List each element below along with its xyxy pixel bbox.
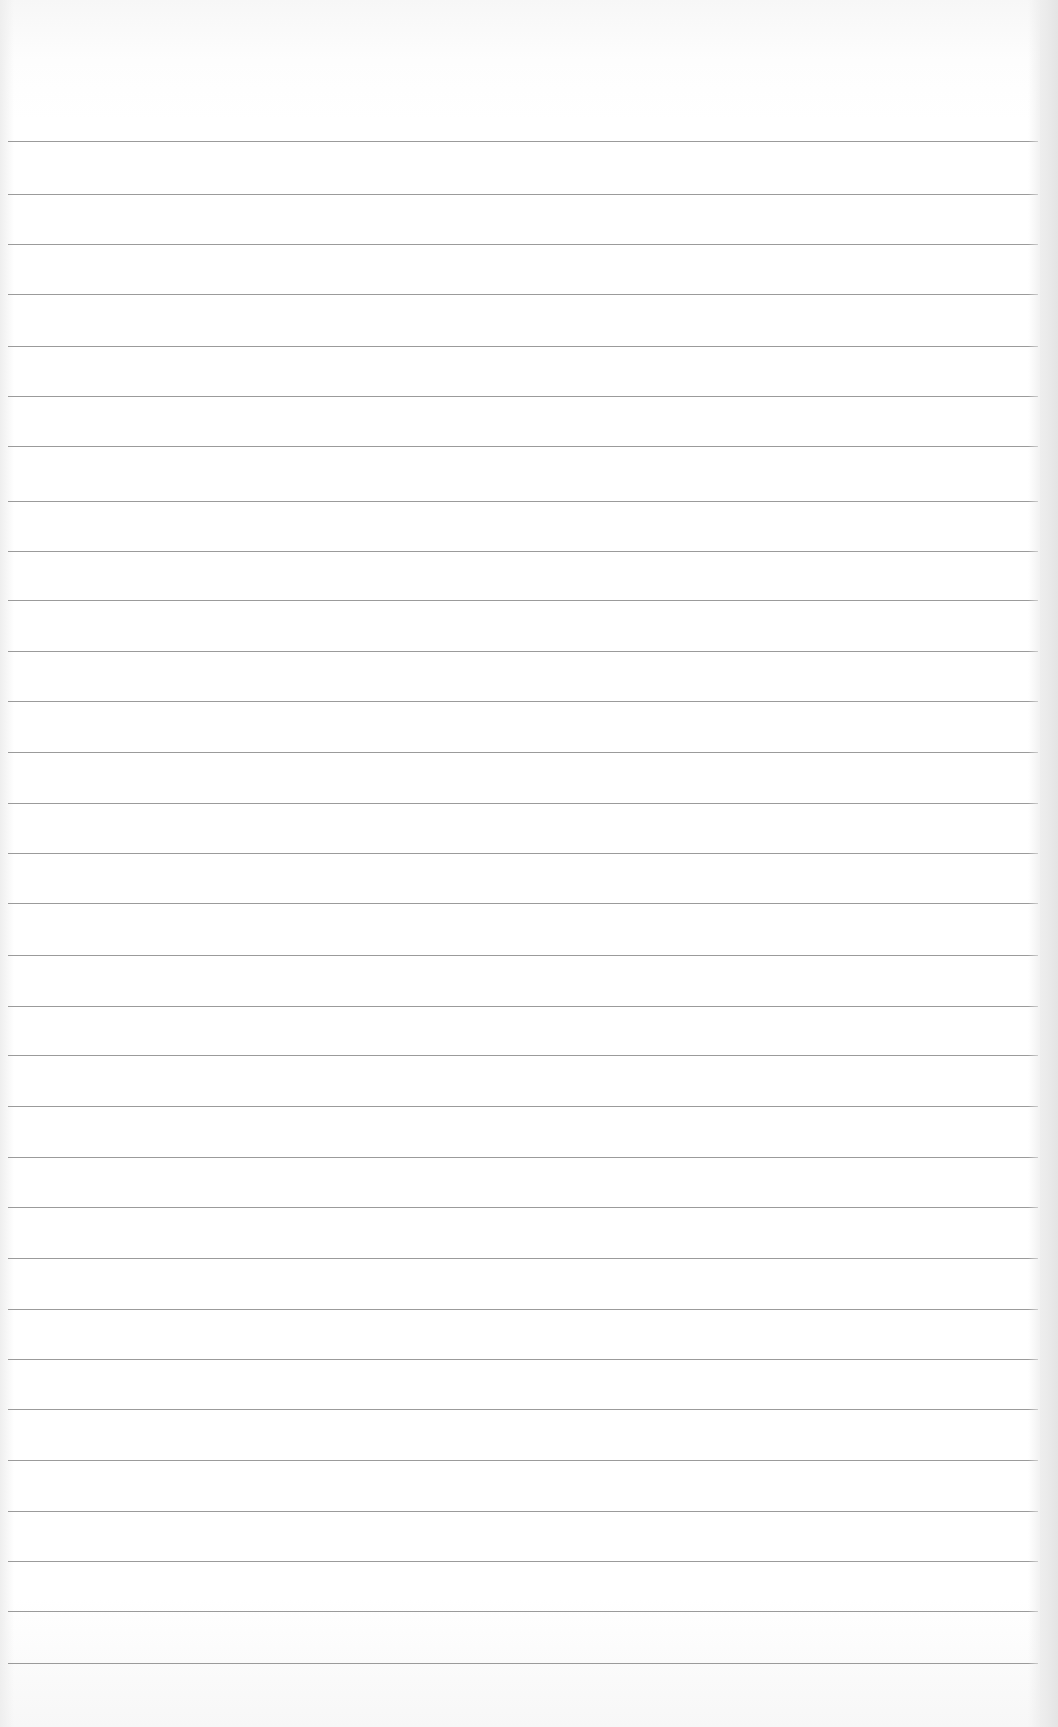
ruled-line: [8, 551, 1038, 552]
ruled-line: [8, 1409, 1038, 1410]
ruled-line: [8, 1511, 1038, 1512]
ruled-line: [8, 446, 1038, 447]
ruled-line: [8, 1309, 1038, 1310]
ruled-line: [8, 1611, 1038, 1612]
ruled-line: [8, 853, 1038, 854]
ruled-line: [8, 501, 1038, 502]
ruled-line: [8, 903, 1038, 904]
ruled-line: [8, 1157, 1038, 1158]
ruled-line: [8, 955, 1038, 956]
ruled-line: [8, 600, 1038, 601]
ruled-line: [8, 1006, 1038, 1007]
ruled-line: [8, 396, 1038, 397]
ruled-line: [8, 1106, 1038, 1107]
ruled-line: [8, 244, 1038, 245]
ruled-line: [8, 752, 1038, 753]
ruled-line: [8, 803, 1038, 804]
ruled-line: [8, 141, 1038, 142]
ruled-line: [8, 1460, 1038, 1461]
ruled-line: [8, 1663, 1038, 1664]
ruled-line: [8, 701, 1038, 702]
right-edge-shadow: [1028, 0, 1058, 1727]
ruled-line: [8, 1055, 1038, 1056]
lined-paper-sheet: [0, 0, 1040, 1727]
ruled-line: [8, 1359, 1038, 1360]
ruled-line: [8, 194, 1038, 195]
ruled-line: [8, 294, 1038, 295]
ruled-line: [8, 346, 1038, 347]
ruled-line: [8, 1258, 1038, 1259]
left-edge-shadow: [0, 0, 14, 1727]
ruled-line: [8, 1207, 1038, 1208]
ruled-line: [8, 1561, 1038, 1562]
ruled-line: [8, 651, 1038, 652]
